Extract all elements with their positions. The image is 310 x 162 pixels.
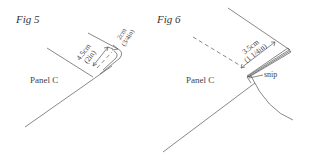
figure-title: Fig 6	[157, 13, 181, 25]
snip-annotation: snip	[264, 70, 277, 79]
figure-5: Fig 5 Panel C 4.5cm (2in) 2cm (3/4in)	[0, 0, 155, 162]
panel-curve-edge	[251, 76, 293, 120]
figure-title: Fig 5	[16, 13, 40, 25]
panel-diagonal-edge	[163, 83, 255, 152]
figure-6: Fig 6 Panel C 3.5cm (1 1/4in) snip	[155, 0, 310, 162]
fold-dashed-line	[193, 37, 241, 66]
panel-label: Panel C	[186, 75, 214, 85]
panel-label: Panel C	[30, 75, 58, 85]
fold-dashed-line	[97, 52, 112, 68]
